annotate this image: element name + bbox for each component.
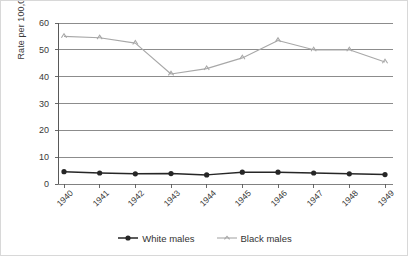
data-point: [61, 169, 66, 174]
x-tick-label: 1941: [75, 188, 110, 223]
y-tick-label: 60: [27, 18, 49, 28]
data-point: [382, 172, 387, 177]
data-point: [311, 47, 316, 51]
data-point: [347, 47, 352, 51]
data-point: [347, 171, 352, 176]
y-axis-line: [55, 23, 59, 184]
y-tick-label: 20: [27, 125, 49, 135]
x-tick-label: 1945: [218, 188, 253, 223]
y-tick-label: 30: [27, 99, 49, 109]
data-point: [275, 170, 280, 175]
legend-label: Black males: [241, 233, 292, 244]
data-point: [168, 171, 173, 176]
data-point: [133, 171, 138, 176]
data-point: [275, 38, 280, 42]
legend-item[interactable]: White males: [118, 233, 194, 244]
data-point: [204, 172, 209, 177]
series-line: [64, 172, 385, 175]
x-axis-tick-labels: 1940194119421943194419451946194719481949: [58, 184, 393, 224]
plot-area: [58, 23, 393, 184]
data-point: [204, 66, 209, 70]
legend-marker-icon: [217, 233, 237, 243]
x-tick-label: 1946: [254, 188, 289, 223]
data-point: [97, 35, 102, 39]
data-point: [311, 170, 316, 175]
y-tick-label: 0: [27, 179, 49, 189]
legend-label: White males: [142, 233, 194, 244]
y-tick-label: 50: [27, 45, 49, 55]
chart-legend: White malesBlack males: [1, 229, 408, 247]
legend-marker-icon: [118, 233, 138, 243]
series-line: [64, 36, 385, 74]
gridlines: [58, 23, 393, 184]
x-tick-label: 1943: [147, 188, 182, 223]
data-point: [61, 34, 66, 38]
series-black-males: [61, 34, 387, 76]
legend-item[interactable]: Black males: [217, 233, 292, 244]
data-point: [240, 170, 245, 175]
series-white-males: [61, 169, 387, 177]
x-tick-label: 1949: [361, 188, 396, 223]
x-tick-label: 1942: [111, 188, 146, 223]
x-tick-label: 1948: [325, 188, 360, 223]
y-tick-label: 40: [27, 72, 49, 82]
data-point: [382, 59, 387, 63]
x-tick-label: 1944: [182, 188, 217, 223]
y-tick-label: 10: [27, 152, 49, 162]
chart-figure: Rate per 100,000 0102030405060 194019411…: [0, 0, 408, 256]
chart-canvas: [58, 23, 393, 184]
data-point: [133, 41, 138, 45]
data-point: [97, 170, 102, 175]
data-series-layer: [61, 34, 387, 178]
x-tick-label: 1947: [289, 188, 324, 223]
